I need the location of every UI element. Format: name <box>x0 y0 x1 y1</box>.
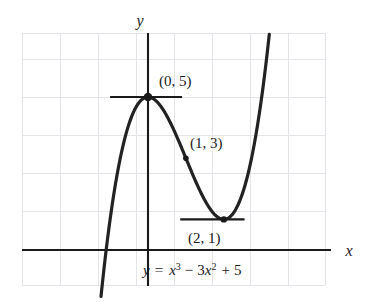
x-axis-label: x <box>344 242 352 259</box>
equation-term1-exponent: 3 <box>176 261 181 272</box>
equation-plus: + <box>221 262 229 278</box>
graph-canvas: y x (0, 5) (1, 3) (2, 1) y=x3−3x2+5 <box>0 0 365 302</box>
marker-inflection-point <box>183 155 189 161</box>
equation-constant: 5 <box>234 262 242 278</box>
equation-lhs: y <box>141 262 150 278</box>
equation-label: y=x3−3x2+5 <box>141 261 241 278</box>
annotation-local-minimum: (2, 1) <box>188 230 221 247</box>
marker-local-minimum <box>221 216 227 222</box>
y-axis-label: y <box>134 12 144 30</box>
equation-term2-exponent: 2 <box>211 261 216 272</box>
annotation-local-maximum: (0, 5) <box>159 73 192 90</box>
equation-term2-coeff: 3 <box>197 262 205 278</box>
graph-figure: y x (0, 5) (1, 3) (2, 1) y=x3−3x2+5 <box>0 0 365 302</box>
marker-local-maximum <box>144 93 152 101</box>
svg-text:y=x3−3x2+5: y=x3−3x2+5 <box>141 261 241 278</box>
equation-equals: = <box>155 262 163 278</box>
equation-minus: − <box>185 262 193 278</box>
annotation-inflection-point: (1, 3) <box>190 135 223 152</box>
